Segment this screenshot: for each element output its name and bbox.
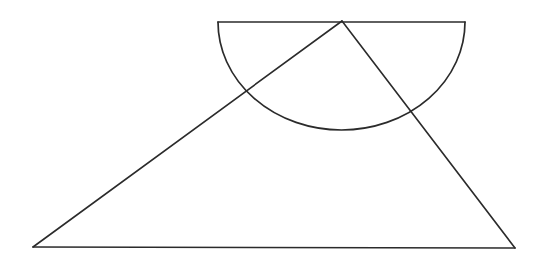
semicircle-arc-path [218,22,465,130]
geometry-svg [0,0,542,264]
triangle-base-line [33,247,515,248]
triangle-left-side-line [33,21,342,247]
triangle-right-side-line [342,21,515,248]
figure-canvas [0,0,542,264]
